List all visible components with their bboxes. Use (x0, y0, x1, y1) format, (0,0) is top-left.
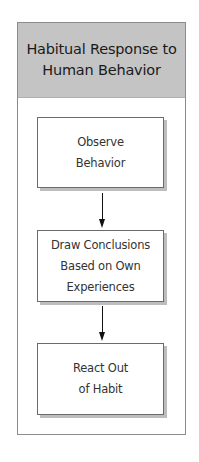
step-2-line-2: Based on Own (60, 256, 140, 277)
step-2-line-1: Draw Conclusions (51, 235, 150, 256)
step-1-line-2: Behavior (76, 153, 125, 174)
step-3-line-1: React Out (73, 358, 128, 379)
flowchart-frame: Habitual Response to Human Behavior Obse… (17, 22, 186, 435)
step-3-line-2: of Habit (79, 379, 123, 400)
step-observe-behavior: Observe Behavior (37, 117, 164, 188)
step-react-out-of-habit: React Out of Habit (37, 343, 164, 415)
title-line-2: Human Behavior (42, 60, 161, 81)
step-2-line-3: Experiences (67, 277, 135, 298)
step-1-line-1: Observe (77, 132, 124, 153)
flowchart-title: Habitual Response to Human Behavior (18, 23, 185, 98)
arrow-down-icon (102, 306, 104, 341)
title-line-1: Habitual Response to (26, 39, 176, 60)
arrow-down-icon (102, 193, 104, 228)
step-draw-conclusions: Draw Conclusions Based on Own Experience… (37, 230, 164, 302)
